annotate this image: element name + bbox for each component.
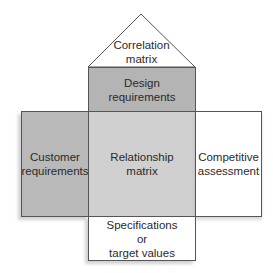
relationship-matrix-box: Relationship matrix: [88, 111, 196, 217]
correlation-matrix-label: Correlation matrix: [88, 38, 195, 66]
design-label-line1: Design: [108, 76, 175, 90]
specifications-label-line2: or: [107, 232, 178, 246]
specifications-label-line1: Specifications: [107, 218, 178, 232]
relationship-label-line2: matrix: [110, 164, 173, 178]
customer-requirements-box: Customer requirements: [21, 111, 89, 217]
design-requirements-box: Design requirements: [88, 67, 196, 112]
customer-label-line2: requirements: [21, 164, 88, 178]
competitive-assessment-box: Competitive assessment: [195, 111, 262, 217]
specifications-label-line3: target values: [107, 246, 178, 260]
competitive-label-line2: assessment: [198, 164, 259, 178]
roof-label-line1: Correlation: [88, 38, 195, 52]
design-label-line2: requirements: [108, 90, 175, 104]
competitive-label-line1: Competitive: [198, 150, 259, 164]
relationship-label-line1: Relationship: [110, 150, 173, 164]
roof-label-line2: matrix: [88, 52, 195, 66]
customer-label-line1: Customer: [21, 150, 88, 164]
specifications-box: Specifications or target values: [88, 216, 196, 261]
